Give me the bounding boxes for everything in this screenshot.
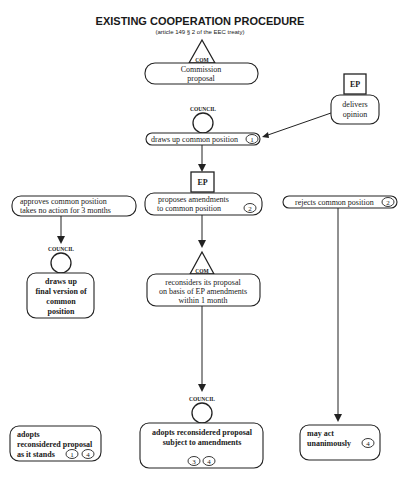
council-circle-icon (51, 253, 71, 273)
node-text: may act (307, 429, 334, 438)
node-text: as it stands (17, 450, 55, 459)
badge-number: 1 (70, 451, 74, 459)
node-text: opinion (343, 110, 367, 119)
council-final-version-node: COUNCIL draws up final version of common… (27, 246, 94, 318)
council-actor-label: COUNCIL (190, 106, 216, 112)
badge-number: 4 (366, 440, 370, 448)
node-text: draws up (45, 277, 77, 286)
commission-proposal-node: COM Commission proposal (145, 40, 258, 84)
node-text: draws up common position (151, 135, 238, 144)
ep-proposes-amendments-node: EP proposes amendments to common positio… (145, 172, 262, 215)
node-text: within 1 month (179, 296, 228, 305)
commission-reconsiders-node: COM reconsiders its proposal on basis of… (147, 252, 260, 306)
arrow-head-icon (262, 132, 269, 138)
council-circle-icon (192, 403, 212, 423)
node-text: adopts (17, 430, 40, 439)
approves-common-position-node: approves common position takes no action… (12, 196, 136, 216)
badge-number: 1 (250, 136, 254, 144)
ep-actor-label: EP (350, 80, 360, 89)
may-act-unanimously-node: may act unanimously 4 (300, 425, 380, 460)
arrow-head-icon (198, 384, 206, 392)
council-actor-label: COUNCIL (48, 246, 74, 252)
arrow-head-icon (198, 240, 206, 248)
badge-number: 4 (86, 451, 90, 459)
node-text: final version of (35, 287, 86, 296)
adopts-as-it-stands-node: adopts reconsidered proposal as it stand… (10, 426, 101, 461)
page-subtitle: (article 149 § 2 of the EEC treaty) (155, 29, 244, 35)
arrow-head-icon (57, 236, 65, 244)
badge-number: 2 (248, 205, 252, 213)
badge-number: 2 (386, 199, 390, 207)
commission-actor-label: COM (195, 57, 209, 63)
node-text: reconsidered proposal (17, 440, 93, 449)
node-text: approves common position (20, 197, 107, 206)
node-text: proposal (187, 74, 215, 83)
node-text: common (46, 297, 76, 306)
node-text: proposes amendments (158, 195, 229, 204)
rejects-common-position-node: rejects common position 2 (283, 196, 397, 208)
arrow-head-icon (334, 414, 342, 422)
node-text: takes no action for 3 months (20, 206, 111, 215)
node-text: subject to amendments (163, 438, 242, 447)
badge-number: 4 (207, 458, 211, 466)
node-text: Commission (181, 65, 221, 74)
ep-actor-label: EP (197, 178, 207, 187)
node-text: unanimously (307, 439, 351, 448)
page-title: EXISTING COOPERATION PROCEDURE (96, 15, 305, 27)
ep-opinion-node: EP delivers opinion (331, 74, 379, 124)
node-text: on basis of EP amendments (159, 287, 247, 296)
node-text: rejects common position (295, 198, 374, 207)
node-text: adopts reconsidered proposal (152, 428, 253, 437)
cooperation-procedure-diagram: EXISTING COOPERATION PROCEDURE (article … (0, 0, 407, 482)
arrow-head-icon (198, 164, 206, 172)
council-actor-label: COUNCIL (189, 396, 215, 402)
node-text: position (47, 307, 75, 316)
node-text: delivers (342, 100, 367, 109)
badge-number: 3 (192, 458, 196, 466)
council-common-position-node: COUNCIL draws up common position 1 (146, 106, 260, 145)
node-text: reconsiders its proposal (165, 278, 241, 287)
council-adopts-amended-node: COUNCIL adopts reconsidered proposal sub… (140, 396, 263, 468)
commission-actor-label: COM (195, 268, 209, 274)
council-circle-icon (193, 113, 213, 133)
node-text: to common position (157, 204, 221, 213)
